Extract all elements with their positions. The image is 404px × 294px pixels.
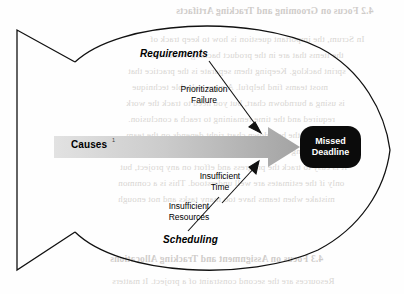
- effect-line-1: Missed: [315, 136, 346, 147]
- cause-label-insufficient-time: Insufficient Time: [186, 171, 254, 193]
- cause-line-2: Failure: [167, 95, 241, 106]
- cause-line-2: Time: [186, 182, 254, 193]
- cause-label-insufficient-resources: Insufficient Resources: [150, 201, 228, 223]
- cause-line-1: Prioritization: [167, 84, 241, 95]
- causes-superscript: 1: [112, 137, 115, 143]
- category-label-scheduling: Scheduling: [163, 234, 218, 245]
- cause-line-2: Resources: [150, 212, 228, 223]
- fishbone-diagram-page: 4.2 Focus on Grooming and Tracking Artif…: [0, 0, 404, 294]
- effect-line-2: Deadline: [312, 147, 350, 158]
- cause-label-prioritization-failure: Prioritization Failure: [167, 84, 241, 106]
- effect-node-missed-deadline: Missed Deadline: [300, 126, 361, 168]
- cause-line-1: Insufficient: [186, 171, 254, 182]
- category-label-requirements: Requirements: [140, 48, 208, 59]
- causes-label: Causes: [71, 139, 107, 150]
- cause-line-1: Insufficient: [150, 201, 228, 212]
